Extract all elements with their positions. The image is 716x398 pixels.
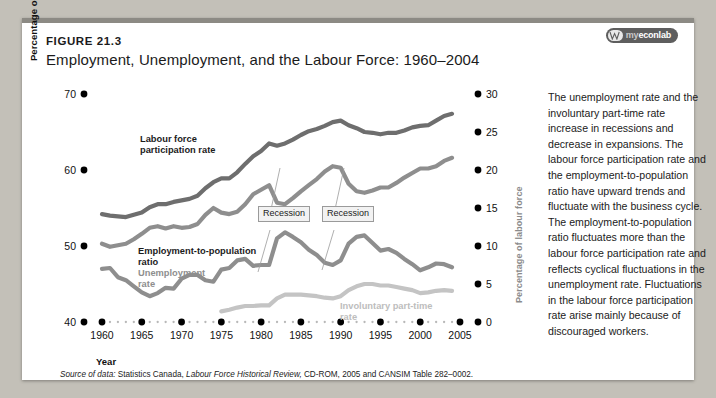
x-tick-dot bbox=[212, 321, 214, 323]
x-tick-dot bbox=[427, 321, 429, 323]
y-tick-dot-right bbox=[475, 243, 482, 250]
x-tick-label: 2005 bbox=[448, 329, 472, 341]
x-tick-label: 1985 bbox=[289, 329, 313, 341]
x-axis-title: Year bbox=[96, 356, 116, 367]
source-italic: Labour Force Historical Review, bbox=[186, 370, 302, 379]
x-tick-dot bbox=[297, 319, 304, 326]
card-top-rule bbox=[22, 18, 694, 23]
x-tick-dot bbox=[164, 321, 166, 323]
y-tick-label-right: 25 bbox=[486, 126, 498, 138]
x-tick-dot bbox=[138, 319, 145, 326]
x-tick-label: 1960 bbox=[90, 329, 114, 341]
y-tick-dot-left bbox=[81, 91, 88, 98]
series-inline-label: rate bbox=[340, 312, 357, 323]
y-tick-label-left: 70 bbox=[64, 88, 76, 100]
x-tick-dot bbox=[324, 321, 326, 323]
x-tick-dot bbox=[411, 321, 413, 323]
x-tick-dot bbox=[332, 321, 334, 323]
series-inline-label: rate bbox=[138, 279, 155, 290]
series-inline-label: Labour force bbox=[140, 134, 197, 145]
x-tick-dot bbox=[377, 319, 384, 326]
y-tick-label-right: 5 bbox=[486, 278, 492, 290]
x-tick-dot bbox=[196, 321, 198, 323]
source-prefix: Source of data: bbox=[60, 370, 116, 379]
x-tick-dot bbox=[244, 321, 246, 323]
x-tick-dot bbox=[276, 321, 278, 323]
y-tick-label-right: 30 bbox=[486, 88, 498, 100]
y-tick-dot-right bbox=[475, 167, 482, 174]
source-body-1: Statistics Canada, bbox=[116, 370, 187, 379]
series-inline-label: Unemployment bbox=[138, 268, 205, 279]
x-tick-dot bbox=[228, 321, 230, 323]
series-line bbox=[102, 158, 452, 247]
x-tick-dot bbox=[236, 321, 238, 323]
x-tick-dot bbox=[308, 321, 310, 323]
x-tick-dot bbox=[435, 321, 437, 323]
x-tick-dot bbox=[316, 321, 318, 323]
x-tick-dot bbox=[172, 321, 174, 323]
recession-label-box: Recession bbox=[322, 206, 374, 222]
x-tick-dot bbox=[387, 321, 389, 323]
x-tick-dot bbox=[218, 319, 225, 326]
x-tick-dot bbox=[258, 319, 265, 326]
x-tick-dot bbox=[252, 321, 254, 323]
x-tick-dot bbox=[178, 319, 185, 326]
x-tick-dot bbox=[417, 319, 424, 326]
x-tick-dot bbox=[149, 321, 151, 323]
x-tick-dot bbox=[292, 321, 294, 323]
y-tick-dot-left bbox=[81, 319, 88, 326]
figure-page: FIGURE 21.3 Employment, Unemployment, an… bbox=[0, 0, 716, 398]
y-axis-left-title: Percentage of working-age population bbox=[28, 0, 39, 78]
y-tick-label-left: 60 bbox=[64, 164, 76, 176]
x-tick-label: 1965 bbox=[130, 329, 154, 341]
series-inline-label: participation rate bbox=[140, 145, 215, 156]
x-tick-dot bbox=[99, 319, 106, 326]
y-tick-label-left: 50 bbox=[64, 240, 76, 252]
x-tick-label: 1980 bbox=[249, 329, 273, 341]
x-tick-dot bbox=[157, 321, 159, 323]
x-tick-dot bbox=[451, 321, 453, 323]
myeconlab-logo[interactable]: myeconlab bbox=[606, 28, 678, 43]
x-tick-dot bbox=[284, 321, 286, 323]
x-tick-dot bbox=[457, 319, 464, 326]
series-inline-label: ratio bbox=[138, 257, 158, 268]
x-tick-dot bbox=[403, 321, 405, 323]
series-inline-label: Involuntary part-time bbox=[340, 301, 432, 312]
x-tick-dot bbox=[363, 321, 365, 323]
source-body-2: CD-ROM, 2005 and CANSIM Table 282–0002. bbox=[302, 370, 473, 379]
figure-title: Employment, Unemployment, and the Labour… bbox=[46, 51, 479, 68]
x-tick-label: 1970 bbox=[170, 329, 194, 341]
x-tick-label: 1975 bbox=[210, 329, 234, 341]
x-tick-dot bbox=[395, 321, 397, 323]
y-tick-label-right: 20 bbox=[486, 164, 498, 176]
x-tick-dot bbox=[133, 321, 135, 323]
y-tick-dot-right bbox=[475, 319, 482, 326]
y-tick-dot-right bbox=[475, 91, 482, 98]
x-tick-dot bbox=[109, 321, 111, 323]
figure-card: FIGURE 21.3 Employment, Unemployment, an… bbox=[22, 18, 694, 380]
y-tick-dot-right bbox=[475, 129, 482, 136]
x-tick-label: 2000 bbox=[409, 329, 433, 341]
series-inline-label: Employment-to-population bbox=[138, 246, 256, 257]
y-tick-dot-right bbox=[475, 205, 482, 212]
x-tick-label: 1990 bbox=[329, 329, 353, 341]
y-tick-dot-left bbox=[81, 243, 88, 250]
figure-number: FIGURE 21.3 bbox=[46, 35, 122, 47]
y-tick-label-right: 10 bbox=[486, 240, 498, 252]
x-tick-label: 1995 bbox=[369, 329, 393, 341]
x-tick-dot bbox=[268, 321, 270, 323]
x-tick-dot bbox=[443, 321, 445, 323]
source-note: Source of data: Statistics Canada, Labou… bbox=[60, 370, 473, 379]
y-tick-label-right: 0 bbox=[486, 316, 492, 328]
x-tick-dot bbox=[204, 321, 206, 323]
x-tick-dot bbox=[125, 321, 127, 323]
myeconlab-logo-text: myeconlab bbox=[626, 31, 671, 40]
y-tick-dot-left bbox=[81, 167, 88, 174]
logo-prefix: my bbox=[626, 30, 639, 40]
x-tick-dot bbox=[117, 321, 119, 323]
y-tick-label-left: 40 bbox=[64, 316, 76, 328]
myeconlab-w-icon bbox=[608, 30, 623, 41]
y-tick-label-right: 15 bbox=[486, 202, 498, 214]
commentary-text: The unemployment rate and the involuntar… bbox=[548, 90, 708, 340]
x-tick-dot bbox=[371, 321, 373, 323]
